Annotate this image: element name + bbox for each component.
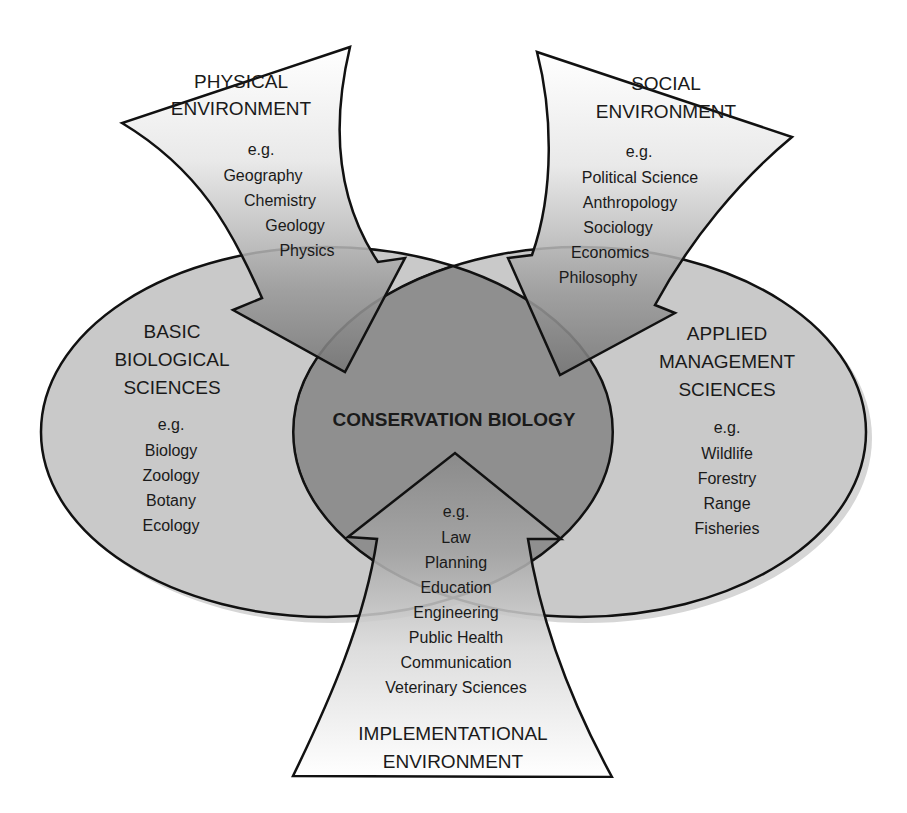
conservation-biology-diagram: PHYSICAL ENVIRONMENT e.g. Geography Chem… (0, 0, 907, 813)
implementational-item: Planning (425, 554, 487, 571)
implementational-item: Communication (400, 654, 511, 671)
applied-item: Wildlife (701, 445, 753, 462)
implementational-item: Veterinary Sciences (385, 679, 526, 696)
implementational-item: Law (441, 529, 471, 546)
conservation-biology-title: CONSERVATION BIOLOGY (333, 409, 576, 430)
basic-heading-line3: SCIENCES (123, 377, 220, 398)
basic-item: Botany (146, 492, 196, 509)
applied-heading-line3: SCIENCES (678, 379, 775, 400)
social-item: Political Science (582, 169, 699, 186)
physical-item: Geography (223, 167, 302, 184)
basic-heading-line2: BIOLOGICAL (114, 349, 229, 370)
physical-heading-line2: ENVIRONMENT (171, 98, 312, 119)
applied-eg: e.g. (714, 419, 741, 436)
physical-heading-line1: PHYSICAL (194, 71, 288, 92)
applied-heading-line1: APPLIED (687, 323, 767, 344)
applied-item: Range (703, 495, 750, 512)
physical-item: Chemistry (244, 192, 316, 209)
social-item: Sociology (583, 219, 652, 236)
basic-item: Ecology (143, 517, 200, 534)
implementational-item: Public Health (409, 629, 503, 646)
basic-item: Zoology (143, 467, 200, 484)
social-item: Economics (571, 244, 649, 261)
basic-item: Biology (145, 442, 197, 459)
implementational-eg: e.g. (443, 503, 470, 520)
physical-eg: e.g. (248, 141, 275, 158)
applied-item: Forestry (698, 470, 757, 487)
implementational-heading-line1: IMPLEMENTATIONAL (358, 723, 547, 744)
social-item: Philosophy (559, 269, 637, 286)
applied-heading-line2: MANAGEMENT (659, 351, 796, 372)
social-heading-line1: SOCIAL (631, 73, 701, 94)
implementational-item: Education (420, 579, 491, 596)
implementational-heading-line2: ENVIRONMENT (383, 751, 524, 772)
implementational-item: Engineering (413, 604, 498, 621)
physical-item: Geology (265, 217, 325, 234)
applied-item: Fisheries (695, 520, 760, 537)
social-eg: e.g. (626, 143, 653, 160)
social-heading-line2: ENVIRONMENT (596, 101, 737, 122)
physical-item: Physics (279, 242, 334, 259)
basic-heading-line1: BASIC (143, 321, 200, 342)
basic-eg: e.g. (158, 416, 185, 433)
social-item: Anthropology (583, 194, 677, 211)
arrow-tail-mask (280, 778, 630, 798)
